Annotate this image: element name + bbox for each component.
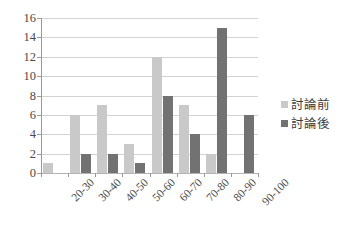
bar-group [177,18,204,173]
bar [70,115,80,173]
bar [152,57,162,173]
legend-item[interactable]: 討論前 [281,96,347,112]
y-axis-tick-label: 0 [0,167,36,180]
y-axis-tick-label: 4 [0,128,36,141]
bar [217,28,227,173]
x-axis-tick-label: 90-100 [260,176,292,208]
x-axis-tick-label: 80-90 [231,176,258,203]
x-axis-tick-label: 70-80 [204,176,231,203]
y-axis-labels: 1614121086420 [0,18,36,173]
y-axis-tick-label: 12 [0,51,36,64]
y-axis-tick-label: 16 [0,12,36,25]
bar [244,115,254,173]
y-axis-tick-label: 14 [0,31,36,44]
legend-swatch-icon [281,101,288,108]
legend-item-label: 討論前 [291,98,330,111]
x-axis-labels: 20-3030-4040-5050-6060-7070-8080-9090-10… [41,176,258,225]
bar-chart: 1614121086420 20-3030-4040-5050-6060-707… [0,0,347,225]
bar-group [122,18,149,173]
y-axis-tick-label: 8 [0,90,36,103]
x-axis-tick [258,173,259,177]
x-axis-tick-label: 20-30 [68,176,95,203]
bar-group [95,18,122,173]
bar-group [41,18,68,173]
chart-legend: 討論前討論後 [281,96,347,134]
x-axis-tick-label: 60-70 [177,176,204,203]
legend-item[interactable]: 討論後 [281,115,347,131]
bar [190,134,200,173]
bar-group [204,18,231,173]
legend-swatch-icon [281,120,288,127]
bar [163,96,173,174]
bar [81,154,91,173]
x-axis-tick-label: 30-40 [96,176,123,203]
bar [108,154,118,173]
y-axis-tick-label: 6 [0,109,36,122]
bar [206,154,216,173]
bar-group [150,18,177,173]
x-axis-tick-label: 50-60 [150,176,177,203]
bar-group [68,18,95,173]
x-axis-tick-label: 40-50 [123,176,150,203]
bars-layer [41,18,258,173]
bar [135,163,145,173]
bar-group [231,18,258,173]
y-axis-tick-label: 2 [0,148,36,161]
bar [124,144,134,173]
bar [179,105,189,173]
y-axis-tick-label: 10 [0,70,36,83]
plot-area [41,18,258,173]
legend-item-label: 討論後 [291,117,330,130]
bar [97,105,107,173]
bar [43,163,53,173]
